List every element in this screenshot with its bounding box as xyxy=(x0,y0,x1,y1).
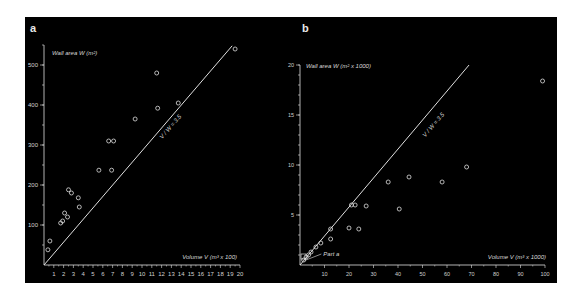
x-tick-label: 19 xyxy=(227,271,234,277)
x-tick-label: 50 xyxy=(419,271,425,277)
data-point xyxy=(66,215,70,219)
data-point xyxy=(176,101,180,105)
data-point xyxy=(156,106,160,110)
x-tick-label: 9 xyxy=(131,271,135,277)
data-point xyxy=(112,139,116,143)
data-point xyxy=(407,175,411,179)
x-tick-label: 20 xyxy=(237,271,244,277)
x-tick-label: 16 xyxy=(197,271,204,277)
x-tick-label: 4 xyxy=(82,271,86,277)
y-tick-label: 500 xyxy=(28,62,39,68)
x-tick-label: 100 xyxy=(540,271,549,277)
chart-b: 1020304050607080901005101520Wall area W … xyxy=(288,62,550,277)
data-point xyxy=(46,248,50,252)
x-tick-label: 10 xyxy=(139,271,146,277)
x-tick-label: 80 xyxy=(493,271,499,277)
x-tick-label: 3 xyxy=(72,271,76,277)
x-tick-label: 90 xyxy=(517,271,523,277)
reference-line-label: V / W = 3.5 xyxy=(422,111,446,138)
data-point xyxy=(465,165,469,169)
x-tick-label: 2 xyxy=(62,271,66,277)
data-point xyxy=(133,117,137,121)
data-point xyxy=(107,139,111,143)
y-tick-label: 15 xyxy=(288,112,294,118)
x-tick-label: 11 xyxy=(149,271,156,277)
y-tick-label: 100 xyxy=(28,222,39,228)
x-tick-label: 18 xyxy=(217,271,224,277)
reference-line xyxy=(300,65,469,265)
x-tick-label: 40 xyxy=(395,271,401,277)
data-point xyxy=(386,180,390,184)
x-tick-label: 6 xyxy=(101,271,105,277)
data-point xyxy=(69,191,73,195)
y-tick-label: 200 xyxy=(28,182,39,188)
x-tick-label: 70 xyxy=(468,271,474,277)
x-tick-label: 60 xyxy=(444,271,450,277)
annotation-label: Part a xyxy=(323,251,340,257)
chart-a: 1234567891011121314151617181920100200300… xyxy=(28,45,244,277)
data-point xyxy=(397,207,401,211)
x-tick-label: 30 xyxy=(370,271,376,277)
data-point xyxy=(541,79,545,83)
data-point xyxy=(48,239,52,243)
x-tick-label: 7 xyxy=(111,271,115,277)
y-tick-label: 20 xyxy=(288,62,294,68)
x-axis-label: Volume V (m³ x 1000) xyxy=(488,254,546,260)
x-tick-label: 1 xyxy=(52,271,56,277)
y-tick-label: 300 xyxy=(28,142,39,148)
data-point xyxy=(76,196,80,200)
x-tick-label: 17 xyxy=(207,271,214,277)
x-tick-label: 20 xyxy=(346,271,352,277)
y-axis-label: Wall area W (m²) xyxy=(52,50,97,56)
data-point xyxy=(110,168,114,172)
data-point xyxy=(364,204,368,208)
x-tick-label: 12 xyxy=(158,271,165,277)
data-point xyxy=(63,211,67,215)
data-point xyxy=(319,241,323,245)
data-point xyxy=(357,227,361,231)
y-tick-label: 400 xyxy=(28,102,39,108)
data-point xyxy=(347,226,351,230)
x-tick-label: 15 xyxy=(188,271,195,277)
y-tick-label: 10 xyxy=(288,162,294,168)
data-point xyxy=(440,180,444,184)
charts-canvas: 1234567891011121314151617181920100200300… xyxy=(0,0,585,297)
data-point xyxy=(155,71,159,75)
data-point xyxy=(77,205,81,209)
reference-line xyxy=(44,46,232,265)
data-point xyxy=(233,47,237,51)
x-tick-label: 14 xyxy=(178,271,185,277)
x-tick-label: 13 xyxy=(168,271,175,277)
y-axis-label: Wall area W (m² x 1000) xyxy=(306,63,371,69)
y-tick-label: 5 xyxy=(291,212,294,218)
x-tick-label: 10 xyxy=(321,271,327,277)
x-axis-label: Volume V (m³ x 100) xyxy=(182,254,237,260)
x-tick-label: 8 xyxy=(121,271,125,277)
data-point xyxy=(97,168,101,172)
data-point xyxy=(329,237,333,241)
x-tick-label: 5 xyxy=(91,271,95,277)
